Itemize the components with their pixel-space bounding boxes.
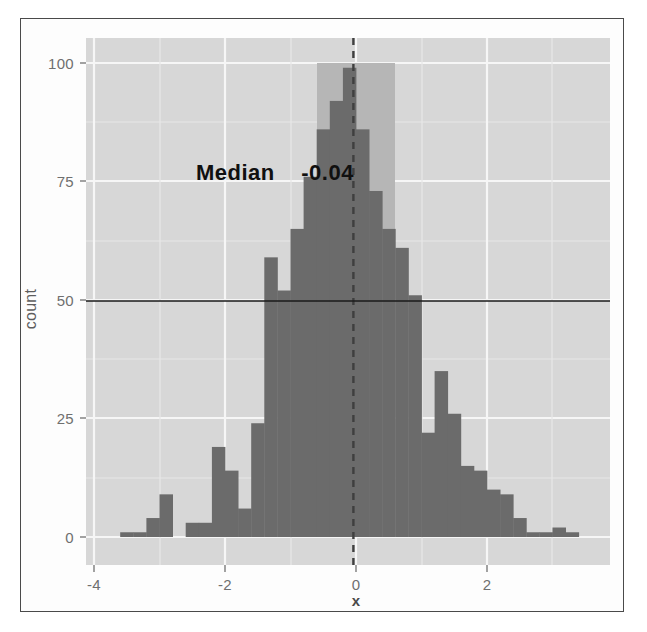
histogram-bar [474,471,488,537]
histogram-bar [264,257,278,537]
x-axis-title: x [336,592,376,609]
histogram-bar [461,466,475,537]
histogram-bar [369,191,383,537]
histogram-bar [422,433,436,537]
histogram-bar [212,447,226,537]
histogram-bar [225,471,239,537]
histogram-bar [513,518,527,537]
y-tick-label-75: 75 [28,173,74,190]
histogram-bar [238,509,252,537]
y-tick-label-25: 25 [28,410,74,427]
y-tick-label-100: 100 [28,55,74,72]
histogram-bar [146,518,160,537]
histogram-bar [566,532,580,537]
histogram-bar [553,528,567,537]
histogram-bar [133,532,147,537]
histogram-bar [186,523,200,537]
y-axis-title: count [22,264,40,354]
x-tick-label-neg2: -2 [205,576,245,593]
figure-page: 100 75 50 25 0 -4 -2 0 2 count x Median … [0,0,647,632]
histogram-bar [382,229,396,537]
histogram-chart [0,0,647,632]
histogram-bar [435,371,449,537]
histogram-bar [539,532,553,537]
histogram-bar [487,490,501,537]
histogram-bar [304,177,318,537]
histogram-bar [448,414,462,537]
median-annotation: Median -0.04 [196,160,354,186]
x-tick-label-neg4: -4 [74,576,114,593]
histogram-bar [291,229,305,537]
histogram-bar [120,532,134,537]
histogram-bar [251,423,265,537]
histogram-bar [526,532,540,537]
x-tick-label-0: 0 [336,576,376,593]
x-axis-ticks [94,565,487,572]
y-axis-ticks [80,63,86,537]
histogram-bar [356,129,370,537]
x-tick-label-2: 2 [467,576,507,593]
histogram-bar [395,248,409,537]
histogram-bar [199,523,213,537]
histogram-bar [408,295,422,537]
histogram-bar [500,494,513,537]
histogram-bar [317,129,331,537]
histogram-bar [160,494,174,537]
histogram-bar [277,291,291,537]
y-tick-label-0: 0 [28,529,74,546]
